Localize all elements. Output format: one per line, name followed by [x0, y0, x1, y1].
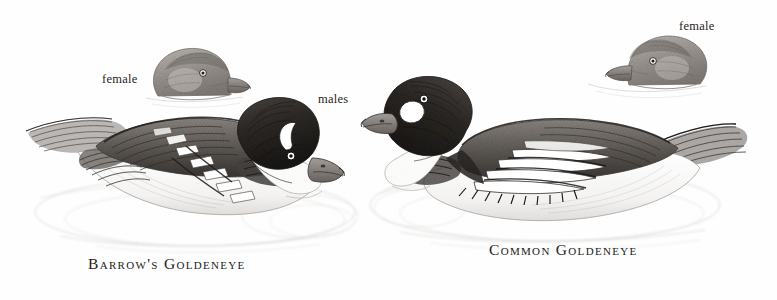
barrows-face-crescent	[280, 122, 296, 150]
female-head-waterline-left	[146, 97, 243, 107]
common-head	[384, 76, 472, 155]
water-ripples-right	[370, 169, 720, 249]
barrows-covert-lines	[112, 126, 238, 170]
barrows-tail	[26, 118, 128, 153]
species-caption-barrows: Barrow's Goldeneye	[88, 255, 246, 273]
common-flank	[424, 150, 700, 220]
barrows-breast	[248, 146, 321, 194]
common-scapular-tips	[459, 188, 577, 205]
common-tertials	[399, 155, 461, 185]
common-mantle	[458, 120, 678, 181]
common-scapular-stripes	[474, 141, 612, 194]
barrows-vent	[79, 148, 150, 186]
common-breast	[385, 132, 452, 186]
common-male	[361, 76, 747, 220]
barrows-scapular-spots	[153, 127, 255, 203]
common-head-feathers	[402, 82, 461, 143]
barrows-mantle	[96, 118, 291, 176]
barrows-head	[237, 98, 319, 170]
barrows-head-feathers	[247, 102, 302, 160]
female-head-waterline-right	[588, 84, 706, 98]
barrows-flank	[78, 150, 315, 215]
species-caption-common: Common Goldeneye	[489, 241, 638, 259]
barrows-tertials	[237, 155, 310, 187]
common-female-head	[606, 36, 707, 89]
common-bill	[362, 113, 397, 133]
barrows-female-head	[153, 48, 250, 99]
common-covert-lines	[528, 128, 660, 167]
common-tail	[648, 124, 747, 167]
common-cheek-spot	[397, 99, 426, 126]
common-shoulder-wedge	[446, 150, 484, 184]
water-ripples-left	[35, 178, 358, 253]
illustration-plate: female males female Barrow's Goldeneye C…	[0, 0, 777, 300]
label-female-common: female	[679, 19, 715, 34]
barrows-male	[26, 98, 344, 215]
label-males: males	[318, 92, 348, 107]
label-female-barrows: female	[102, 72, 138, 87]
barrows-bill	[308, 158, 344, 182]
